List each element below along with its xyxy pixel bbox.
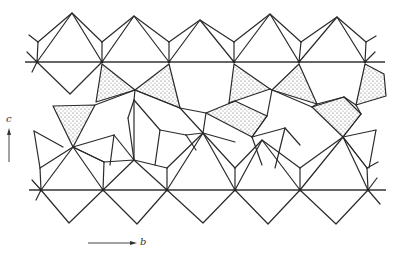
shaded-polyhedra — [53, 64, 386, 147]
shaded-polyhedron-1 — [96, 64, 135, 102]
shaded-polyhedron-4 — [229, 64, 270, 103]
vertex-nodes — [36, 61, 370, 192]
shaded-polyhedron-2 — [135, 64, 180, 108]
bottom-octahedra — [32, 131, 380, 224]
b-axis-label: b — [140, 236, 146, 247]
c-axis-arrow — [7, 128, 11, 162]
shaded-polyhedron-7 — [356, 64, 386, 105]
crystal-structure-diagram — [0, 0, 394, 254]
shaded-polyhedron-5 — [272, 64, 317, 104]
shaded-polyhedron-3 — [53, 105, 95, 147]
top-octahedra — [27, 13, 376, 94]
shaded-polyhedron-6 — [206, 101, 267, 137]
b-axis-arrow — [88, 241, 137, 245]
c-axis-label: c — [6, 113, 12, 124]
